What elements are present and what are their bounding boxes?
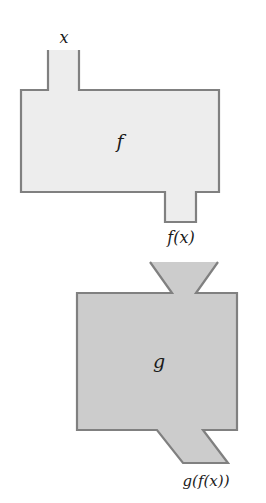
output-label-gfx: g(f(x)): [182, 472, 229, 490]
diagram-canvas: f x f(x) g g(f(x)): [0, 0, 266, 503]
intermediate-label-fx: f(x): [166, 228, 194, 247]
machine-g-letter: g: [153, 350, 165, 372]
machine-f-group: f: [21, 50, 219, 222]
function-machine-diagram: f x f(x) g g(f(x)): [0, 0, 266, 503]
input-label-x: x: [59, 28, 68, 47]
machine-g-group: g: [77, 262, 237, 463]
